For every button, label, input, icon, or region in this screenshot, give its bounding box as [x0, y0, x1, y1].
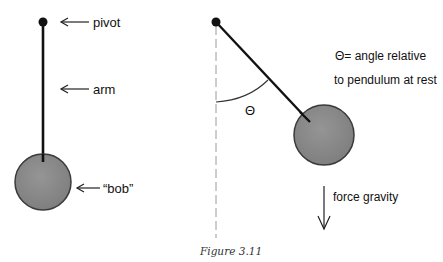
left-bob: [15, 154, 71, 210]
angle-legend-line2: to pendulum at rest: [334, 73, 437, 87]
pivot-arrow-icon: [61, 18, 89, 26]
left-pivot-dot: [39, 18, 48, 27]
figure-caption: Figure 3.11: [199, 245, 262, 257]
right-arm: [216, 22, 307, 119]
angle-legend-line1: Θ= angle relative: [335, 49, 426, 63]
gravity-label: force gravity: [333, 190, 398, 204]
left-pendulum: pivot arm “bob”: [15, 15, 133, 210]
angle-symbol: Θ: [245, 103, 255, 118]
right-pivot-dot: [212, 18, 221, 27]
angle-arc: [216, 80, 268, 102]
gravity-arrow-icon: [318, 186, 330, 229]
pendulum-diagram: pivot arm “bob” Θ Θ= angle relative to p…: [0, 0, 443, 262]
bob-label: “bob”: [103, 181, 133, 196]
pivot-label: pivot: [93, 15, 121, 30]
arm-arrow-icon: [61, 85, 89, 93]
arm-label: arm: [93, 82, 115, 97]
right-pendulum: Θ Θ= angle relative to pendulum at rest …: [212, 18, 438, 239]
bob-arrow-icon: [77, 184, 100, 192]
